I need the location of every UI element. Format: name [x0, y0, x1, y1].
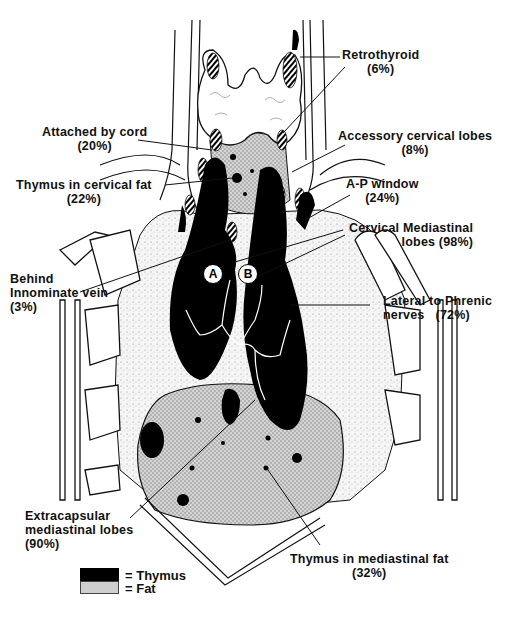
legend-swatch-thymus [80, 568, 119, 581]
label-extracapsular-mediastinal-lobes: Extracapsular mediastinal lobes (90%) [25, 509, 133, 551]
label-percentage: (90%) [25, 537, 133, 551]
label-text: Innominate vein [10, 286, 108, 300]
label-text: Cervical Mediastinal [349, 221, 473, 235]
label-ap-window: A-P window (24%) [346, 177, 419, 205]
label-text: A-P window [346, 177, 419, 191]
label-percentage: (8%) [338, 143, 492, 157]
legend-swatch-fat [80, 581, 119, 594]
marker-b: B [238, 264, 258, 284]
label-thymus-in-cervical-fat: Thymus in cervical fat (22%) [16, 178, 152, 206]
label-percentage: (32%) [290, 566, 449, 580]
label-thymus-in-mediastinal-fat: Thymus in mediastinal fat (32%) [290, 552, 449, 580]
label-text: Behind [10, 272, 108, 286]
marker-a: A [203, 264, 223, 284]
label-percentage: (24%) [346, 191, 419, 205]
label-text: Retrothyroid [342, 48, 419, 62]
label-attached-by-cord: Attached by cord (20%) [42, 125, 147, 153]
label-text: Thymus in mediastinal fat [290, 552, 449, 566]
label-text: nerves [383, 308, 425, 322]
label-percentage: (3%) [10, 300, 108, 314]
thymus-anatomy-diagram: Retrothyroid (6%) Attached by cord (20%)… [0, 0, 521, 617]
label-text: Lateral to Phrenic [383, 294, 492, 308]
label-cervical-mediastinal-lobes: Cervical Mediastinal lobes (98%) [349, 221, 473, 249]
legend-label-fat: = Fat [125, 582, 156, 596]
label-percentage: lobes (98%) [349, 235, 473, 249]
label-percentage: (6%) [342, 62, 419, 76]
label-percentage: (72%) [436, 308, 470, 322]
label-accessory-cervical-lobes: Accessory cervical lobes (8%) [338, 129, 492, 157]
label-text: Attached by cord [42, 125, 147, 139]
label-behind-innominate-vein: Behind Innominate vein (3%) [10, 272, 108, 314]
label-percentage: (22%) [16, 192, 152, 206]
label-percentage: (20%) [42, 139, 147, 153]
label-text: Accessory cervical lobes [338, 129, 492, 143]
label-text: Thymus in cervical fat [16, 178, 152, 192]
label-lateral-to-phrenic-nerves: Lateral to Phrenic nerves (72%) [383, 294, 492, 322]
label-text: mediastinal lobes [25, 523, 133, 537]
label-text: Extracapsular [25, 509, 133, 523]
mediastinal-fat [138, 384, 344, 525]
label-retrothyroid: Retrothyroid (6%) [342, 48, 419, 76]
